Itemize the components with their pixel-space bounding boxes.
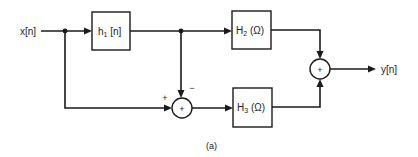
svg-text:h1 [n]: h1 [n] [98,26,122,38]
block-h1-label-arg: [n] [107,26,121,37]
input-label-x-n: x[n] [20,26,36,37]
arrow-head-icon [317,79,324,87]
svg-text:H2 (Ω): H2 (Ω) [236,25,264,37]
block-H3-label-arg: (Ω) [248,102,265,113]
figure-caption: (a) [206,141,217,151]
arrow-head-icon [224,28,232,35]
summer-output-symbol: + [317,65,322,75]
subtract-wire [178,31,185,98]
summer-middle-plus-sign: + [162,93,167,103]
block-H3-label-main: H [237,102,244,113]
svg-text:H3 (Ω): H3 (Ω) [237,102,265,114]
arrow-head-icon [368,66,376,73]
block-H3: H3 (Ω) [233,88,272,127]
block-diagram: x[n] h1 [n] + + − [0,0,418,157]
output-wire [330,66,376,73]
summer-middle-symbol: + [179,104,184,114]
arrow-head-icon [178,90,185,98]
arrow-head-icon [317,51,324,59]
h2-output-wire [271,30,324,59]
arrow-head-icon [84,28,92,35]
summer-middle-minus-sign: − [189,83,194,93]
arrow-head-icon [225,105,233,112]
summer-middle: + [172,98,192,118]
h3-output-wire [272,79,324,107]
output-label-y-n: y[n] [381,64,397,75]
block-H2-label-arg: (Ω) [247,25,264,36]
block-H2: H2 (Ω) [232,11,271,49]
summer-output: + [310,59,330,79]
summer-to-h3-wire [192,105,233,112]
block-h1: h1 [n] [92,12,130,50]
block-H2-label-main: H [236,25,243,36]
arrow-head-icon [164,105,172,112]
